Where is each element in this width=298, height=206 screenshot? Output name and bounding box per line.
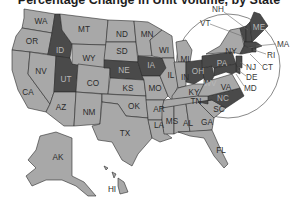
label-sd: SD bbox=[116, 47, 127, 56]
callout-ri: RI bbox=[267, 51, 275, 60]
state-ak[interactable] bbox=[26, 132, 96, 196]
label-in: IN bbox=[181, 73, 189, 82]
label-co: CO bbox=[87, 79, 99, 88]
callout-md: MD bbox=[244, 84, 257, 93]
label-hi: HI bbox=[108, 185, 116, 194]
label-mn: MN bbox=[141, 30, 154, 39]
label-ga: GA bbox=[201, 118, 213, 127]
label-ks: KS bbox=[123, 84, 134, 93]
label-az: AZ bbox=[56, 103, 66, 112]
label-il: IL bbox=[168, 71, 175, 80]
label-tx: TX bbox=[120, 129, 131, 138]
label-id: ID bbox=[56, 46, 64, 55]
label-nv: NV bbox=[35, 67, 47, 76]
label-ky: KY bbox=[189, 88, 200, 97]
label-wi: WI bbox=[159, 46, 169, 55]
label-or: OR bbox=[26, 37, 38, 46]
label-mo: MO bbox=[148, 84, 161, 93]
label-ca: CA bbox=[22, 88, 34, 97]
label-nc: NC bbox=[217, 94, 229, 103]
label-al: AL bbox=[183, 119, 193, 128]
label-wa: WA bbox=[35, 17, 48, 26]
callout-ma: MA bbox=[277, 40, 290, 49]
label-mt: MT bbox=[78, 25, 90, 34]
label-ms: MS bbox=[166, 117, 179, 126]
label-mi: MI bbox=[180, 55, 189, 64]
label-ok: OK bbox=[128, 102, 140, 111]
label-la: LA bbox=[154, 121, 165, 130]
label-ut: UT bbox=[61, 75, 72, 84]
label-tn: TN bbox=[191, 97, 202, 106]
us-choropleth-map: WA OR CA ID NV UT AZ MT WY CO NM ND SD N… bbox=[0, 0, 298, 206]
label-ia: IA bbox=[147, 61, 155, 70]
label-fl: FL bbox=[216, 146, 226, 155]
label-sc: SC bbox=[213, 105, 224, 114]
label-nd: ND bbox=[116, 30, 128, 39]
label-pa: PA bbox=[217, 59, 228, 68]
label-oh: OH bbox=[192, 67, 204, 76]
label-va: VA bbox=[221, 83, 232, 92]
label-ny: NY bbox=[225, 47, 237, 56]
label-ar: AR bbox=[153, 105, 164, 114]
label-wv: WV bbox=[203, 79, 217, 88]
callout-nj: NJ bbox=[246, 63, 256, 72]
label-wy: WY bbox=[82, 54, 96, 63]
label-nm: NM bbox=[83, 108, 96, 117]
label-me: ME bbox=[253, 23, 266, 32]
callout-de: DE bbox=[246, 73, 258, 82]
label-ne: NE bbox=[118, 66, 130, 75]
callout-nh: NH bbox=[212, 5, 224, 14]
callout-vt: VT bbox=[200, 19, 210, 28]
callout-ct: CT bbox=[262, 63, 273, 72]
label-ak: AK bbox=[53, 153, 64, 162]
